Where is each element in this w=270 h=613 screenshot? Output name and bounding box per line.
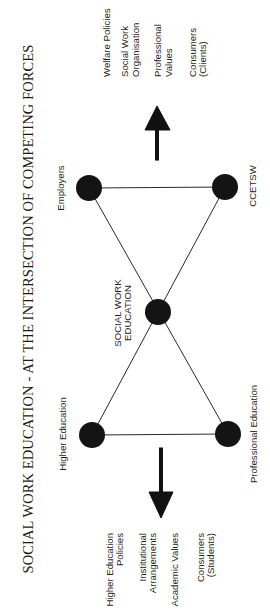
right-forces-list: Welfare Policies Social Work Organisatio… bbox=[101, 8, 208, 77]
arrow-left-icon bbox=[149, 448, 173, 518]
label-ccetsw: CCETSW bbox=[247, 164, 258, 207]
right-force-welfare-policies: Welfare Policies bbox=[101, 8, 112, 77]
diagram-page: SOCIAL WORK EDUCATION - AT THE INTERSECT… bbox=[0, 0, 270, 613]
svg-text:Academic Values: Academic Values bbox=[169, 533, 180, 607]
diagram-canvas: SOCIAL WORK EDUCATION - AT THE INTERSECT… bbox=[0, 0, 270, 613]
svg-text:(Clients): (Clients) bbox=[197, 41, 208, 77]
arrow-right-icon bbox=[145, 106, 170, 160]
svg-text:Policies: Policies bbox=[114, 533, 125, 566]
label-employers: Employers bbox=[55, 165, 66, 211]
svg-text:Welfare Policies: Welfare Policies bbox=[101, 8, 112, 77]
label-higher-education: Higher Education bbox=[57, 397, 68, 471]
right-force-consumers-clients: Consumers (Clients) bbox=[187, 28, 208, 77]
svg-text:Values: Values bbox=[163, 48, 174, 77]
diagram-title: SOCIAL WORK EDUCATION - AT THE INTERSECT… bbox=[20, 45, 36, 574]
left-forces-list: Higher Education Policies Institutional … bbox=[104, 533, 216, 607]
node-employers bbox=[76, 175, 102, 201]
svg-text:Professional: Professional bbox=[152, 24, 163, 77]
label-professional-education: Professional Education bbox=[248, 385, 259, 483]
right-force-professional-values: Professional Values bbox=[152, 24, 174, 77]
left-force-academic-values: Academic Values bbox=[169, 533, 180, 607]
svg-text:(Students): (Students) bbox=[205, 533, 216, 577]
node-higher-education bbox=[79, 422, 105, 448]
left-force-higher-education-policies: Higher Education Policies bbox=[104, 533, 125, 607]
left-force-institutional-arrangements: Institutional Arrangements bbox=[137, 533, 158, 593]
left-force-consumers-students: Consumers (Students) bbox=[195, 533, 216, 582]
edge-employers-to-ccetsw bbox=[89, 187, 225, 188]
edge-higher-ed-to-professional-ed bbox=[92, 434, 228, 435]
node-social-work-education bbox=[145, 299, 171, 325]
svg-text:Organisation: Organisation bbox=[130, 23, 141, 77]
svg-text:Arrangements: Arrangements bbox=[147, 533, 158, 593]
label-social-work-education-line2: EDUCATION bbox=[122, 285, 133, 341]
node-professional-education bbox=[215, 421, 241, 447]
right-force-social-work-organisation: Social Work Organisation bbox=[119, 23, 141, 77]
node-ccetsw bbox=[212, 174, 238, 200]
svg-text:Social Work: Social Work bbox=[119, 26, 130, 77]
rotated-diagram: SOCIAL WORK EDUCATION - AT THE INTERSECT… bbox=[20, 8, 259, 606]
